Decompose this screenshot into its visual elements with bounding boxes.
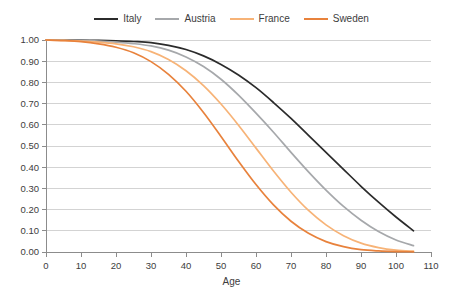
x-tick-label: 60: [251, 260, 262, 271]
y-tick-label: 0.10: [21, 225, 40, 236]
tick-marks: [42, 40, 431, 257]
y-tick-label: 0.80: [21, 77, 40, 88]
x-tick-label: 80: [321, 260, 332, 271]
y-tick-label: 1.00: [21, 34, 40, 45]
y-tick-label: 0.00: [21, 246, 40, 257]
series-line-italy: [46, 40, 414, 231]
plot-area: 0.000.100.200.300.400.500.600.700.800.90…: [0, 0, 463, 297]
x-tick-label: 0: [43, 260, 48, 271]
y-tick-label: 0.60: [21, 119, 40, 130]
series-line-austria: [46, 40, 414, 246]
x-axis-title: Age: [0, 276, 463, 287]
x-tick-label: 10: [76, 260, 87, 271]
chart-container: Italy Austria France Sweden 0.000.100.20…: [0, 0, 463, 297]
x-tick-label: 70: [286, 260, 297, 271]
x-tick-label: 20: [111, 260, 122, 271]
y-tick-label: 0.70: [21, 98, 40, 109]
y-tick-label: 0.40: [21, 162, 40, 173]
y-tick-label: 0.50: [21, 140, 40, 151]
y-tick-label: 0.20: [21, 204, 40, 215]
plot-svg: 0.000.100.200.300.400.500.600.700.800.90…: [0, 0, 463, 297]
x-tick-label: 30: [146, 260, 157, 271]
x-tick-label: 100: [388, 260, 404, 271]
gridlines: [46, 40, 431, 231]
y-tick-label: 0.90: [21, 56, 40, 67]
x-tick-label: 40: [181, 260, 192, 271]
y-tick-label: 0.30: [21, 183, 40, 194]
series-line-france: [46, 40, 414, 251]
x-tick-label: 90: [356, 260, 367, 271]
x-tick-label: 50: [216, 260, 227, 271]
x-tick-label: 110: [423, 260, 438, 271]
